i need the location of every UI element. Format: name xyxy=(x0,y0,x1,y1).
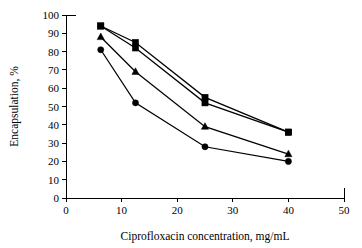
data-point-circle xyxy=(98,47,104,53)
y-tick-label: 30 xyxy=(48,137,60,149)
series-line xyxy=(101,26,289,132)
y-axis-ticks: 0102030405060708090100 xyxy=(43,9,67,204)
y-tick-label: 60 xyxy=(48,82,60,94)
data-point-square xyxy=(98,23,104,29)
data-point-square xyxy=(132,45,138,51)
data-point-circle xyxy=(132,100,138,106)
chart-plot-area: 010203040500102030405060708090100Ciprofl… xyxy=(0,0,362,248)
x-axis-title: Ciprofloxacin concentration, mg/mL xyxy=(121,230,290,243)
y-axis-title: Encapsulation, % xyxy=(8,66,21,147)
x-tick-label: 10 xyxy=(116,204,128,216)
series-line xyxy=(101,26,289,132)
data-point-triangle xyxy=(97,33,104,40)
y-tick-label: 100 xyxy=(43,9,60,21)
y-tick-label: 80 xyxy=(48,46,60,58)
y-tick-label: 90 xyxy=(48,27,60,39)
chart-axes xyxy=(66,15,344,198)
y-tick-label: 70 xyxy=(48,64,60,76)
series-line xyxy=(101,37,289,154)
data-point-circle xyxy=(285,158,291,164)
chart-figure: 010203040500102030405060708090100Ciprofl… xyxy=(0,0,362,248)
x-tick-label: 0 xyxy=(63,204,69,216)
y-tick-label: 20 xyxy=(48,155,60,167)
data-point-triangle xyxy=(201,123,208,130)
data-point-square xyxy=(285,129,291,135)
chart-series-group xyxy=(97,23,292,165)
y-tick-label: 50 xyxy=(48,101,60,113)
y-tick-label: 10 xyxy=(48,174,60,186)
x-tick-label: 40 xyxy=(283,204,295,216)
x-axis-ticks: 01020304050 xyxy=(63,198,350,216)
data-point-circle xyxy=(202,144,208,150)
chart-series xyxy=(98,47,292,165)
x-tick-label: 20 xyxy=(172,204,184,216)
data-point-square xyxy=(202,100,208,106)
y-tick-label: 0 xyxy=(54,192,60,204)
x-tick-label: 50 xyxy=(339,204,351,216)
y-tick-label: 40 xyxy=(48,119,60,131)
x-tick-label: 30 xyxy=(227,204,239,216)
